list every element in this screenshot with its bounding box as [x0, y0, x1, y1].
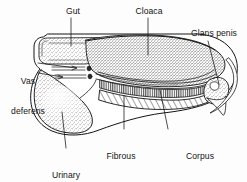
label-urinary-bladder-line1: Urinary: [42, 170, 90, 180]
label-corpus-cavernosum: Corpus cavernosum: [164, 131, 236, 182]
label-fibrous-tissue-line1: Fibrous: [98, 151, 144, 161]
label-urinary-bladder: Urinary bladder: [42, 150, 90, 182]
label-vas-deferens-line1: Vas: [5, 76, 51, 86]
label-corpus-cavernosum-line1: Corpus: [164, 151, 236, 161]
label-cloaca: Cloaca: [130, 6, 168, 16]
label-corpus-cavernosum-line2: cavernosum: [164, 181, 236, 182]
label-vas-deferens-line2: deferens: [5, 106, 51, 116]
label-fibrous-tissue-line2: tissue: [98, 181, 144, 182]
label-fibrous-tissue: Fibrous tissue: [98, 131, 144, 182]
anatomical-figure: Gut Cloaca Glans penis Vas deferens Urin…: [0, 0, 247, 182]
label-glans-penis: Glans penis: [186, 28, 242, 38]
label-vas-deferens: Vas deferens: [5, 56, 51, 136]
label-gut: Gut: [60, 6, 86, 16]
